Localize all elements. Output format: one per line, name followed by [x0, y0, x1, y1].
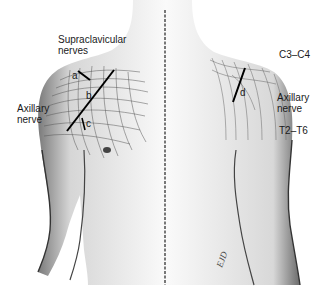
body-drawing: EJD — [0, 0, 332, 291]
label-axillary-nerve-anterior: Axillary nerve — [17, 103, 49, 125]
label-c3-c4: C3–C4 — [279, 49, 310, 60]
marker-c: c — [86, 119, 91, 129]
dermatome-illustration: EJD Supraclavicular nerves Axillary nerv… — [0, 0, 332, 291]
posterior-torso — [166, 0, 300, 285]
label-axillary-nerve-posterior: Axillary nerve — [277, 92, 309, 114]
label-supraclavicular-nerves: Supraclavicular nerves — [58, 34, 126, 56]
marker-a: a — [72, 71, 78, 81]
marker-b: b — [86, 91, 92, 101]
marker-d: d — [240, 88, 246, 98]
nipple — [103, 147, 111, 153]
label-t2-t6: T2–T6 — [279, 125, 308, 136]
